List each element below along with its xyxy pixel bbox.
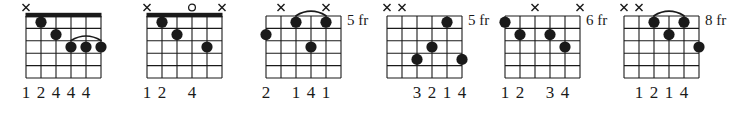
finger-dot[interactable] [693,41,704,52]
fingering-digit: 1 [665,83,674,102]
fingering-digit: 2 [262,83,271,102]
fingering-digit: 3 [413,83,422,102]
finger-dot[interactable] [411,54,422,65]
fret-position-label: 5 fr [347,12,368,28]
fingering-digit: 2 [37,83,46,102]
muted-string-icon [636,4,643,11]
fret-position-label: 6 fr [586,12,607,28]
barre-arc [296,11,326,16]
fingering-digit: 4 [307,83,316,102]
muted-string-icon [577,4,584,11]
finger-dot[interactable] [544,29,555,40]
finger-dot[interactable] [456,54,467,65]
chord-diagram-6[interactable]: 8 fr1214 [610,0,731,114]
fingering-digit: 1 [322,83,331,102]
finger-dot[interactable] [50,29,61,40]
fingering-digit: 1 [292,83,301,102]
finger-dot[interactable] [441,17,452,28]
fret-position-label: 8 fr [705,12,726,28]
muted-string-icon [621,4,628,11]
muted-string-icon [278,4,285,11]
chord-diagram-2[interactable]: 124 [133,0,268,114]
fingering-digit: 2 [516,83,525,102]
fingering-digit: 1 [143,83,152,102]
finger-dot[interactable] [559,41,570,52]
fingering-digit: 4 [561,83,570,102]
fingering-digit: 3 [546,83,555,102]
finger-dot[interactable] [426,41,437,52]
open-string-icon [189,4,196,11]
chord-diagram-5[interactable]: 6 fr1234 [491,0,626,114]
muted-string-icon [219,4,226,11]
finger-dot[interactable] [35,17,46,28]
fingering-digit: 2 [428,83,437,102]
finger-dot[interactable] [648,17,659,28]
barre-arc [654,11,684,16]
finger-dot[interactable] [65,41,76,52]
fingering-digit: 1 [22,83,31,102]
fingering-digit: 4 [458,83,467,102]
muted-string-icon [23,4,30,11]
finger-dot[interactable] [171,29,182,40]
fingering-digit: 1 [635,83,644,102]
muted-string-icon [144,4,151,11]
muted-string-icon [323,4,330,11]
finger-dot[interactable] [156,17,167,28]
nut-bar [26,13,102,18]
finger-dot[interactable] [320,17,331,28]
fingering-digit: 4 [52,83,61,102]
nut-bar [147,13,223,18]
finger-dot[interactable] [290,17,301,28]
finger-dot[interactable] [305,41,316,52]
finger-dot[interactable] [663,29,674,40]
fingering-digit: 2 [158,83,167,102]
chord-diagram-4[interactable]: 5 fr3214 [373,0,508,114]
chord-diagram-3[interactable]: 5 fr2141 [252,0,387,114]
chord-diagram-1[interactable]: 12444 [12,0,147,114]
fingering-digit: 4 [82,83,91,102]
finger-dot[interactable] [95,41,106,52]
finger-dot[interactable] [678,17,689,28]
muted-string-icon [532,4,539,11]
fingering-digit: 4 [67,83,76,102]
fingering-digit: 4 [680,83,689,102]
finger-dot[interactable] [80,41,91,52]
fingering-digit: 2 [650,83,659,102]
fingering-digit: 4 [188,83,197,102]
fret-position-label: 5 fr [468,12,489,28]
finger-dot[interactable] [201,41,212,52]
finger-dot[interactable] [514,29,525,40]
muted-string-icon [384,4,391,11]
finger-dot[interactable] [499,17,510,28]
finger-dot[interactable] [260,29,271,40]
muted-string-icon [399,4,406,11]
fingering-digit: 1 [501,83,510,102]
fingering-digit: 1 [443,83,452,102]
